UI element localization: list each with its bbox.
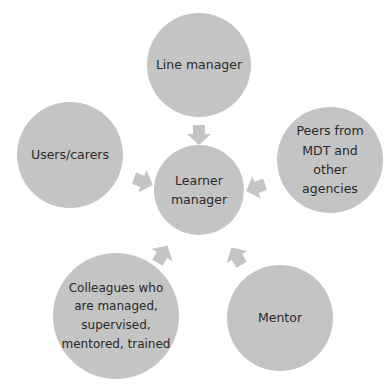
arrow-up-left-icon xyxy=(221,241,252,270)
arrow-up-right-icon xyxy=(147,239,178,268)
arrow-left-icon xyxy=(242,173,269,202)
arrow-down-icon xyxy=(187,125,211,145)
arrow-right-icon xyxy=(130,167,157,196)
arrows-layer xyxy=(0,0,391,390)
